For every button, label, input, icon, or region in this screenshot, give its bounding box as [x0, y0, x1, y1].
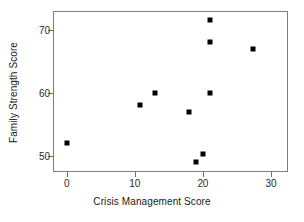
x-tick	[271, 172, 272, 177]
x-tick-label: 0	[64, 178, 69, 189]
y-axis-label-text: Family Strength Score	[9, 42, 20, 143]
plot-data-area	[53, 11, 288, 172]
y-tick-label: 70	[39, 24, 50, 35]
data-point	[137, 103, 142, 108]
data-point	[153, 90, 158, 95]
x-tick	[67, 172, 68, 177]
data-point	[250, 46, 255, 51]
data-point	[207, 18, 212, 23]
data-point	[64, 141, 69, 146]
data-point	[194, 159, 199, 164]
data-point	[200, 152, 205, 157]
x-axis-label: Crisis Management Score	[0, 196, 304, 207]
data-point	[207, 40, 212, 45]
y-tick-label: 60	[39, 87, 50, 98]
scatter-plot-figure: Crisis Management Score Family Strength …	[0, 0, 304, 222]
y-axis-label: Family Strength Score	[6, 0, 22, 185]
x-tick-label: 20	[197, 178, 208, 189]
data-point	[207, 90, 212, 95]
x-tick-label: 30	[266, 178, 277, 189]
x-tick	[203, 172, 204, 177]
x-tick-label: 10	[129, 178, 140, 189]
x-tick	[135, 172, 136, 177]
data-point	[187, 109, 192, 114]
y-tick-label: 50	[39, 150, 50, 161]
